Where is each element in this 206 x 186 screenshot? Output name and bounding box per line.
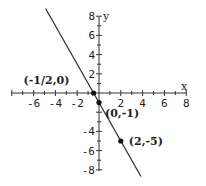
x-axis-label: x [181,80,188,93]
graph: -6-4-22468 8642-4-6-8 x y (-1/2,0)(0,-1)… [0,0,206,186]
x-tick-label: 8 [183,97,190,110]
point-label: (-1/2,0) [24,74,70,87]
y-tick-label: 8 [88,10,95,23]
x-tick-label: -4 [49,97,63,110]
y-tick-label: -6 [82,145,95,158]
x-tick-label: 4 [139,97,146,110]
y-tick-label: 6 [88,29,95,42]
x-tick-label: -6 [27,97,40,110]
y-tick-label: -8 [82,164,95,177]
point-label: (2,-5) [129,135,163,148]
data-point [118,138,123,143]
y-tick-label: 4 [88,49,95,62]
x-tick-label: 6 [161,97,168,110]
x-tick-label: -2 [71,97,84,110]
y-tick-label: 2 [88,68,95,81]
y-axis-label: y [102,10,110,23]
data-point [91,90,96,95]
data-point [96,100,101,105]
y-tick-label: -4 [82,125,96,138]
point-label: (0,-1) [105,107,139,120]
